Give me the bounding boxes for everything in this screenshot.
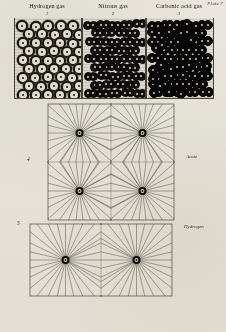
gas-particle — [17, 89, 29, 99]
gas-particle — [138, 19, 146, 28]
gas-particle — [176, 89, 186, 99]
gas-panel-number: 3 — [146, 11, 212, 16]
gas-panel-title: Nitrous gas — [82, 2, 144, 9]
gas-particle — [131, 29, 140, 38]
molecule-field-nitrous — [83, 18, 145, 98]
plate-illustration: Plate 7 Hydrogen gas 1 Nitrous gas 2 Car… — [0, 0, 226, 332]
figure-5-lattice — [0, 218, 226, 332]
gas-panel-box — [146, 18, 214, 99]
figure-5: 5 Hydrogen — [0, 218, 226, 332]
gas-panels-row: Hydrogen gas 1 Nitrous gas 2 Carbonic ac… — [0, 0, 226, 104]
gas-particle — [164, 87, 174, 97]
gas-particle — [30, 89, 42, 99]
gas-panel-number: 2 — [82, 11, 144, 16]
gas-panel-box — [14, 18, 82, 99]
gas-particle — [68, 89, 80, 99]
plate-number-label: Plate 7 — [207, 1, 223, 6]
molecule-field-carbonic — [147, 18, 213, 98]
figure-4: 4 Azote — [0, 104, 226, 220]
gas-particle — [204, 87, 214, 97]
figure-4-label: Azote — [186, 154, 197, 159]
gas-particle — [148, 74, 158, 84]
gas-particle — [131, 46, 140, 55]
gas-particle — [42, 89, 54, 99]
gas-panel-number: 1 — [14, 11, 80, 16]
gas-panel-title: Carbonic acid gas — [146, 2, 212, 9]
gas-particle — [138, 38, 146, 47]
molecule-field-hydrogen — [15, 18, 81, 98]
gas-particle — [54, 89, 66, 99]
figure-4-lattice — [0, 104, 226, 220]
gas-panel-box — [82, 18, 146, 99]
figure-5-label: Hydrogen — [184, 224, 204, 229]
gas-particle — [138, 89, 146, 98]
gas-particle — [131, 63, 140, 72]
figure-5-number: 5 — [17, 220, 20, 226]
gas-panel-title: Hydrogen gas — [14, 2, 80, 9]
gas-particle — [202, 61, 212, 71]
gas-particle — [137, 72, 146, 81]
figure-4-number: 4 — [27, 156, 30, 162]
gas-particle — [182, 27, 192, 37]
gas-particle — [138, 55, 146, 64]
